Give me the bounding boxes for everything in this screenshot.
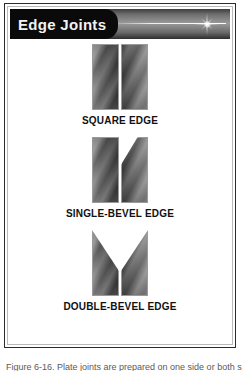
figure-square-edge: SQUARE EDGE: [10, 44, 230, 137]
section-title: Edge Joints: [18, 17, 106, 32]
single-bevel-right-plate: [121, 137, 148, 203]
figure-caption: Figure 6-16. Plate joints are prepared o…: [6, 362, 242, 371]
figure-list: SQUARE EDGE SINGLE-BEVEL EDGE: [10, 44, 230, 341]
figure-panel: Edge Joints SQUARE EDGE: [4, 3, 236, 348]
single-bevel-left-plate: [92, 137, 119, 203]
figure-double-bevel-edge: DOUBLE-BEVEL EDGE: [10, 230, 230, 323]
square-edge-right-plate: [121, 44, 148, 110]
light-streak: [111, 23, 225, 24]
double-bevel-right-plate: [121, 230, 148, 296]
single-bevel-edge-caption: SINGLE-BEVEL EDGE: [10, 208, 230, 219]
double-bevel-edge-illustration: [92, 230, 148, 296]
square-edge-illustration: [92, 44, 148, 110]
figure-single-bevel-edge: SINGLE-BEVEL EDGE: [10, 137, 230, 230]
double-bevel-left-plate: [92, 230, 119, 296]
single-bevel-edge-illustration: [92, 137, 148, 203]
square-edge-caption: SQUARE EDGE: [10, 115, 230, 126]
section-title-tab: Edge Joints: [10, 9, 118, 39]
section-banner: Edge Joints: [10, 9, 230, 39]
square-edge-left-plate: [92, 44, 119, 110]
double-bevel-edge-caption: DOUBLE-BEVEL EDGE: [10, 301, 230, 312]
